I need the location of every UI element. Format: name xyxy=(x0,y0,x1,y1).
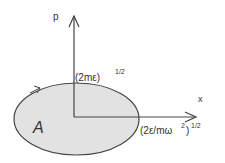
p-axis-label: p xyxy=(53,11,59,22)
p-intercept-exponent: 1/2 xyxy=(115,68,125,75)
x-intercept-close: ) xyxy=(186,125,189,136)
x-intercept-label: (2ε/mω xyxy=(140,125,172,136)
p-intercept-label: (2mε) xyxy=(75,72,100,83)
area-label: A xyxy=(32,119,44,136)
x-intercept-exponent: 1/2 xyxy=(191,122,201,129)
x-intercept-square: 2 xyxy=(181,122,185,129)
phase-space-diagram: p x (2mε) 1/2 (2ε/mω 2 ) 1/2 A xyxy=(0,0,225,163)
x-axis-label: x xyxy=(198,94,203,104)
